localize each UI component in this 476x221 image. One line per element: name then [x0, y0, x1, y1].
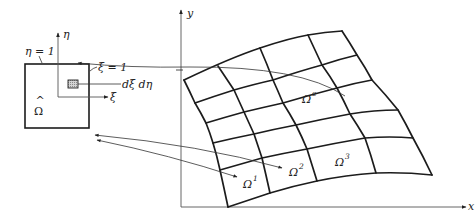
xi-axis-label: ξ: [110, 91, 117, 104]
element-label-omega-1-sup: 1: [253, 174, 258, 183]
mesh-row-line: [228, 173, 432, 207]
physical-axes: y x: [181, 7, 475, 213]
xi-edge-label: ξ = 1: [98, 61, 127, 74]
mesh-column-line: [218, 66, 270, 193]
mesh-row-line: [195, 55, 357, 103]
xi-edge-leader: [90, 67, 97, 71]
x-axis-label: x: [468, 200, 475, 213]
mesh-column-line: [260, 48, 317, 181]
element-label-omega-2: Ω: [288, 166, 298, 179]
y-axis-label: y: [186, 7, 194, 20]
isoparametric-mapping-diagram: η η = 1 ξ = 1 dξ dη ξ ^ Ω y x: [0, 0, 476, 221]
element-label-omega-e-sup: e: [312, 89, 317, 98]
curved-mesh: [184, 31, 432, 207]
mapping-arrow-omega-1: [97, 140, 237, 177]
mesh-column-line: [342, 31, 432, 175]
mapping-arrow-omega-2: [95, 135, 282, 168]
mesh-column-line: [308, 35, 376, 173]
element-label-omega-2-sup: 2: [298, 162, 304, 171]
element-label-omega-e: Ω: [301, 93, 311, 106]
element-labels: Ω e Ω 1 Ω 2 Ω 3: [242, 89, 350, 191]
eta-axis-label: η: [63, 28, 70, 41]
mesh-row-line: [220, 137, 413, 170]
element-label-omega-3: Ω: [334, 156, 344, 169]
mapping-arrows: [78, 63, 345, 177]
master-element: η η = 1 ξ = 1 dξ dη ξ ^ Ω: [25, 28, 153, 128]
element-label-omega-3-sup: 3: [345, 152, 350, 161]
master-domain-label: Ω: [34, 105, 43, 118]
eta-edge-label: η = 1: [25, 45, 55, 58]
differential-label: dξ dη: [122, 78, 153, 91]
element-label-omega-1: Ω: [242, 178, 252, 191]
differential-area-cell: [68, 80, 78, 88]
